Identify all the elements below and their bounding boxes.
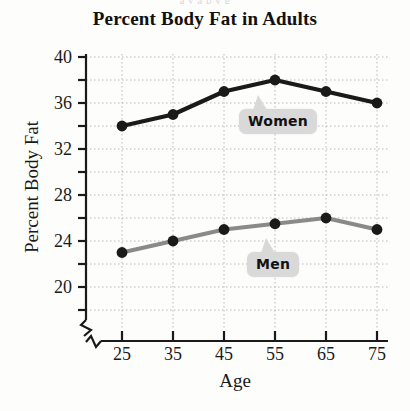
- x-tick-label: 55: [255, 345, 295, 363]
- x-axis-break: [86, 336, 101, 347]
- x-ticks: [122, 331, 377, 341]
- chart-figure: a y a p y g Percent Body Fat in Adults P…: [0, 0, 410, 411]
- callout-tail-icon: [261, 238, 275, 253]
- y-tick-label: 20: [32, 278, 72, 296]
- y-tick-label: 36: [32, 94, 72, 112]
- y-axis-break: [81, 320, 91, 336]
- series-callout-women-label: Women: [248, 113, 308, 129]
- x-tick-label: 65: [306, 345, 346, 363]
- y-tick-label: 32: [32, 140, 72, 158]
- series-markers-men: [117, 213, 383, 258]
- y-tick-label: 40: [32, 48, 72, 66]
- y-tick-label: 28: [32, 186, 72, 204]
- x-tick-label: 45: [204, 345, 244, 363]
- callout-tail-icon: [253, 95, 267, 110]
- series-callout-men-label: Men: [256, 256, 290, 272]
- series-callout-women: Women: [239, 109, 317, 134]
- x-tick-label: 25: [102, 345, 142, 363]
- y-tick-label: 24: [32, 232, 72, 250]
- x-tick-label: 75: [357, 345, 397, 363]
- x-tick-label: 35: [153, 345, 193, 363]
- series-line-men: [122, 218, 377, 253]
- series-callout-men: Men: [247, 252, 299, 277]
